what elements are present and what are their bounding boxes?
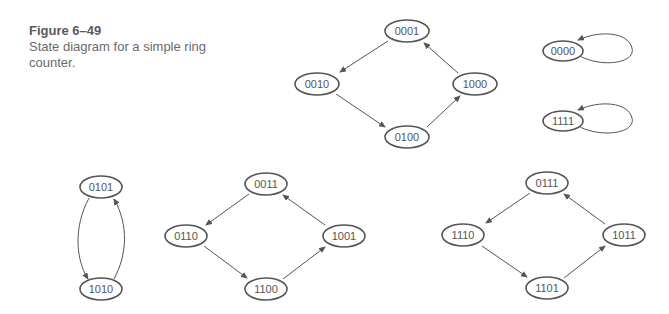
edge-1010-0101 bbox=[114, 199, 125, 279]
edge-1000-0001 bbox=[424, 43, 458, 73]
edge-0010-0100 bbox=[336, 94, 385, 127]
edge-0101-1010 bbox=[78, 198, 89, 279]
edge-0000-0000 bbox=[578, 34, 632, 63]
state-label-1010: 1010 bbox=[89, 283, 113, 295]
edge-1101-1011 bbox=[564, 246, 605, 278]
edge-0100-1000 bbox=[427, 96, 460, 127]
edge-0001-0010 bbox=[340, 41, 388, 72]
state-label-0001: 0001 bbox=[395, 25, 419, 37]
pair-group bbox=[78, 176, 125, 300]
edge-0111-1110 bbox=[486, 193, 530, 223]
edge-1110-1101 bbox=[482, 246, 527, 277]
state-label-1110: 1110 bbox=[452, 229, 475, 241]
edge-1111-1111 bbox=[578, 104, 632, 133]
state-label-1101: 1101 bbox=[535, 282, 559, 294]
state-diagram: 0001 0010 1000 0100 0000 1111 0101 1010 … bbox=[0, 0, 669, 314]
state-label-0011: 0011 bbox=[254, 178, 278, 190]
state-label-0000: 0000 bbox=[551, 45, 575, 57]
state-label-0100: 0100 bbox=[395, 131, 419, 143]
state-label-1100: 1100 bbox=[254, 283, 278, 295]
state-label-1111: 1111 bbox=[552, 115, 574, 127]
state-label-1011: 1011 bbox=[612, 229, 636, 241]
state-label-0101: 0101 bbox=[89, 181, 113, 193]
state-label-0110: 0110 bbox=[174, 230, 198, 242]
edge-1100-1001 bbox=[283, 247, 325, 279]
edge-0011-0110 bbox=[206, 194, 249, 225]
state-label-1001: 1001 bbox=[332, 230, 356, 242]
edge-0110-1100 bbox=[204, 246, 247, 278]
state-label-0111: 0111 bbox=[536, 177, 559, 189]
edge-1001-0011 bbox=[283, 195, 325, 225]
edge-1011-0111 bbox=[564, 194, 605, 224]
state-label-0010: 0010 bbox=[305, 78, 329, 90]
state-label-1000: 1000 bbox=[463, 78, 487, 90]
